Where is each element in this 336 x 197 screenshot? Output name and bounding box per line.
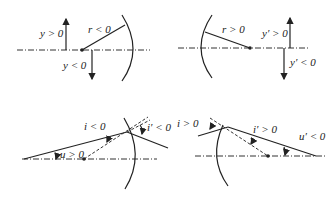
center-point [248, 46, 252, 50]
angle-u-prime-arrow-icon [284, 147, 285, 155]
angle-i-arrow-icon [210, 123, 211, 129]
sign-convention-diagram: y > 0 y < 0 r < 0 r > 0 y′ > 0 y′ < 0 i … [0, 0, 336, 197]
label-i: i < 0 [84, 120, 106, 132]
label-y-negative: y < 0 [62, 59, 87, 71]
label-y-prime-positive: y′ > 0 [261, 27, 288, 39]
panel-image-height-radius: r > 0 y′ > 0 y′ < 0 [178, 15, 316, 79]
label-radius: r > 0 [222, 23, 245, 35]
label-i-prime: i′ < 0 [147, 121, 171, 133]
label-i-prime: i′ > 0 [253, 123, 277, 135]
angle-i-prime-arrow-icon [251, 138, 252, 144]
angle-i-arrow-icon [107, 137, 108, 142]
label-u: u > 0 [60, 148, 84, 160]
label-radius: r < 0 [88, 23, 111, 35]
panel-incidence-angles-positive: i > 0 i′ > 0 u′ < 0 [177, 117, 326, 186]
center-point [266, 154, 270, 158]
label-y-positive: y > 0 [39, 27, 64, 39]
incident-ray [198, 127, 228, 136]
angle-u-arrow-icon [55, 153, 56, 159]
label-i: i > 0 [177, 117, 199, 129]
panel-object-height-radius: y > 0 y < 0 r < 0 [17, 15, 150, 81]
panel-incidence-angles-negative: i < 0 i′ < 0 u > 0 [22, 117, 171, 189]
angle-i-prime-arrow-icon [140, 125, 142, 134]
label-y-prime-negative: y′ < 0 [289, 56, 316, 68]
label-u-prime: u′ < 0 [299, 130, 326, 142]
center-point [80, 48, 84, 52]
refracting-surface-arc [122, 15, 133, 81]
refracting-surface-arc [201, 15, 212, 78]
